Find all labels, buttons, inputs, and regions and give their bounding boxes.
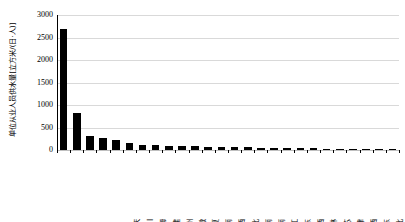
y-tick-label: 1500	[7, 79, 53, 87]
bar	[73, 113, 81, 150]
x-category-label: 江西	[370, 219, 378, 222]
x-axis-category-labels: 重庆四川上海福建贵州安徽宁夏海南陕西湖北云南河南黑龙江山东山西吉林江苏天津江西广…	[57, 153, 399, 222]
bar-series	[57, 15, 399, 150]
bar	[60, 29, 68, 150]
x-category-label: 天津	[357, 219, 365, 222]
bar	[126, 143, 134, 150]
y-tick-label: 500	[7, 124, 53, 132]
y-tick-label: 2000	[7, 56, 53, 64]
x-category-label: 广东	[383, 219, 391, 222]
x-category-label: 黑龙江	[291, 219, 299, 222]
x-category-label: 海南	[225, 219, 233, 222]
x-category-label: 山西	[317, 219, 325, 222]
x-category-label: 河南	[278, 219, 286, 222]
x-category-label: 山东	[304, 219, 312, 222]
y-tick-label: 0	[7, 146, 53, 154]
bar	[99, 138, 107, 150]
x-category-label: 宁夏	[212, 219, 220, 222]
y-axis-line	[57, 15, 58, 150]
y-tick-label: 1000	[7, 101, 53, 109]
y-axis-tick-labels: 300025002000150010005000	[0, 15, 53, 150]
bar	[86, 136, 94, 150]
plot-area	[57, 15, 399, 150]
x-category-label: 福建	[173, 219, 181, 222]
x-category-label: 上海	[159, 219, 167, 222]
y-tick-label: 2500	[7, 34, 53, 42]
x-category-label: 贵州	[186, 219, 194, 222]
x-category-label: 河北	[396, 219, 404, 222]
bar	[112, 140, 120, 150]
x-category-label: 江苏	[344, 219, 352, 222]
chart-container: 单位从业人员供水量[立方米/(日·人)] 3000250020001500100…	[0, 0, 405, 222]
x-category-label: 湖北	[252, 219, 260, 222]
y-tick-label: 3000	[7, 11, 53, 19]
x-category-label: 陕西	[238, 219, 246, 222]
x-category-label: 吉林	[330, 219, 338, 222]
x-tick-mark	[399, 150, 400, 153]
x-category-label: 云南	[265, 219, 273, 222]
x-category-label: 四川	[146, 219, 154, 222]
x-category-label: 重庆	[133, 219, 141, 222]
x-category-label: 安徽	[199, 219, 207, 222]
